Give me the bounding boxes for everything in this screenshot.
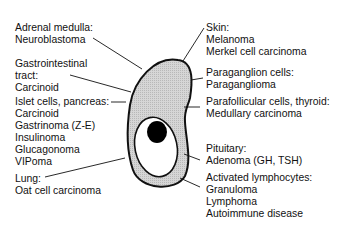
label-paraganglion: Paraganglion cells: Paraganglioma — [206, 67, 294, 91]
label-lung: Lung: Oat cell carcinoma — [15, 173, 101, 197]
nucleolus — [147, 121, 167, 143]
label-islet-cells: Islet cells, pancreas: Carcinoid Gastrin… — [15, 96, 109, 168]
label-parafollicular: Parafollicular cells, thyroid: Medullary… — [206, 96, 330, 120]
label-skin: Skin: Melanoma Merkel cell carcinoma — [206, 22, 306, 58]
label-gastrointestinal: Gastrointestinal tract: Carcinoid — [15, 58, 87, 94]
label-activated-lymphocytes: Activated lymphocytes: Granuloma Lymphom… — [206, 172, 312, 220]
label-pituitary: Pituitary: Adenoma (GH, TSH) — [206, 143, 302, 167]
label-adrenal-medulla: Adrenal medulla: Neuroblastoma — [15, 22, 93, 46]
